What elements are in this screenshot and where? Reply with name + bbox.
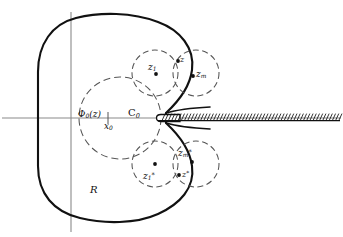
hatch-tick xyxy=(297,114,300,121)
hatch-tick xyxy=(236,114,239,121)
hatch-tick xyxy=(284,114,287,121)
hatch-tick xyxy=(217,114,220,121)
hatch-tick xyxy=(188,114,191,121)
point-zm xyxy=(191,74,195,78)
hatch-tick xyxy=(329,114,332,121)
hatch-tick xyxy=(275,114,278,121)
hatch-tick xyxy=(332,114,335,121)
hatch-tick xyxy=(201,114,204,121)
hatch-tick xyxy=(287,114,290,121)
hatch-tick xyxy=(265,114,268,121)
hatch-tick xyxy=(310,114,313,121)
point-z1 xyxy=(154,72,158,76)
hatch-tick xyxy=(220,114,223,121)
hatch-tick xyxy=(181,114,184,121)
hatch-tick xyxy=(281,114,284,121)
hatch-tick xyxy=(255,114,258,121)
hatch-tick xyxy=(258,114,261,121)
hatch-tick xyxy=(233,114,236,121)
hatch-tick xyxy=(271,114,274,121)
hatch-tick xyxy=(246,114,249,121)
branch-cut-hatching xyxy=(162,114,342,121)
hatch-tick xyxy=(197,114,200,121)
hatch-tick xyxy=(204,114,207,121)
hatch-tick xyxy=(323,114,326,121)
hatch-tick xyxy=(300,114,303,121)
hatch-tick xyxy=(226,114,229,121)
label-z1: z1 xyxy=(148,63,157,72)
hatch-tick xyxy=(210,114,213,121)
hatch-tick xyxy=(316,114,319,121)
hatch-tick xyxy=(303,114,306,121)
hatch-tick xyxy=(278,114,281,121)
label-c0: C0 xyxy=(128,108,140,119)
hatch-tick xyxy=(194,114,197,121)
point-zm-star xyxy=(190,160,194,164)
hatch-tick xyxy=(185,114,188,121)
label-z-star: z* xyxy=(182,171,189,179)
hatch-tick xyxy=(291,114,294,121)
label-zm-star: zm* xyxy=(178,149,192,158)
hatch-tick xyxy=(191,114,194,121)
hatch-tick xyxy=(230,114,233,121)
hatch-tick xyxy=(252,114,255,121)
hatch-tick xyxy=(262,114,265,121)
hatch-tick xyxy=(307,114,310,121)
hatch-tick xyxy=(313,114,316,121)
figure-svg xyxy=(0,0,343,237)
hatch-tick xyxy=(207,114,210,121)
hatch-tick xyxy=(320,114,323,121)
hatch-tick xyxy=(268,114,271,121)
hatch-tick xyxy=(294,114,297,121)
hatch-tick xyxy=(242,114,245,121)
label-region-R: R xyxy=(90,185,98,195)
label-x0: x0 xyxy=(104,122,113,131)
hatch-tick xyxy=(339,114,342,121)
hatch-tick xyxy=(326,114,329,121)
label-z1-star: z1* xyxy=(143,172,155,181)
hatch-tick xyxy=(249,114,252,121)
figure-canvas: Φ0(z) x0 C0 R z1 z zm z1* zm* z* xyxy=(0,0,343,237)
label-zm: zm xyxy=(196,70,206,79)
hatch-tick xyxy=(213,114,216,121)
point-z-star xyxy=(177,173,181,177)
label-z: z xyxy=(180,56,184,64)
hatch-tick xyxy=(336,114,339,121)
hatch-tick xyxy=(223,114,226,121)
label-phi0-of-z: Φ0(z) xyxy=(78,110,101,119)
point-z1-star xyxy=(153,162,157,166)
hatch-tick xyxy=(239,114,242,121)
